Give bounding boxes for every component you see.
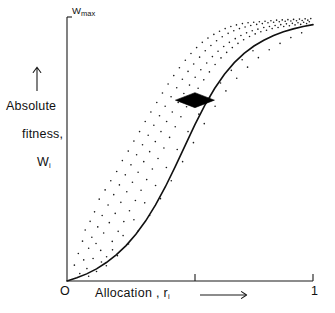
scatter-point: [212, 56, 214, 58]
scatter-point: [92, 258, 94, 260]
scatter-point: [193, 63, 195, 65]
scatter-point: [229, 42, 231, 44]
scatter-point: [167, 83, 169, 85]
scatter-point: [290, 37, 292, 39]
scatter-point: [98, 198, 100, 200]
scatter-point: [171, 111, 173, 113]
scatter-point: [221, 36, 223, 38]
scatter-point: [106, 265, 108, 267]
scatter-point: [246, 32, 248, 34]
scatter-point: [289, 25, 291, 27]
scatter-point: [162, 92, 164, 94]
scatter-point: [133, 219, 135, 221]
scatter-point: [189, 84, 191, 86]
scatter-point: [132, 181, 134, 183]
scatter-point: [133, 140, 135, 142]
scatter-point: [110, 180, 112, 182]
scatter-point: [79, 273, 81, 275]
scatter-point: [117, 231, 119, 233]
y-axis-max-label-base: W: [72, 5, 81, 16]
scatter-point: [304, 18, 306, 20]
scatter-point: [159, 115, 161, 117]
scatter-point: [202, 42, 204, 44]
scatter-point: [207, 37, 209, 39]
scatter-point: [241, 59, 243, 61]
scatter-point: [206, 62, 208, 64]
scatter-point: [114, 213, 116, 215]
scatter-point: [96, 271, 98, 273]
scatter-point: [106, 256, 108, 258]
scatter-point: [227, 33, 229, 35]
scatter-point: [126, 191, 128, 193]
y-axis-title-line-1: Absolute: [6, 100, 56, 113]
scatter-point: [209, 71, 211, 73]
scatter-point: [237, 43, 239, 45]
scatter-point: [186, 106, 188, 108]
scatter-point: [247, 66, 249, 68]
scatter-point: [89, 221, 91, 223]
scatter-point: [180, 116, 182, 118]
scatter-point: [171, 180, 173, 182]
scatter-point: [231, 70, 233, 72]
scatter-point: [253, 21, 255, 23]
y-axis-title-line-3: Wi: [37, 156, 51, 170]
scatter-point: [196, 47, 198, 49]
scatter-point: [95, 243, 97, 245]
scatter-point: [290, 20, 292, 22]
x-axis-origin-label: O: [60, 285, 70, 298]
scatter-point: [163, 147, 165, 149]
scatter-point: [262, 23, 264, 25]
scatter-point: [243, 39, 245, 41]
scatter-point: [100, 250, 102, 252]
scatter-point: [203, 79, 205, 81]
scatter-point: [179, 67, 181, 69]
scatter-point: [283, 26, 285, 28]
scatter-point: [292, 23, 294, 25]
scatter-point: [136, 154, 138, 156]
scatter-point: [279, 21, 281, 23]
scatter-point: [111, 241, 113, 243]
scatter-point: [230, 26, 232, 28]
scatter-point: [91, 236, 93, 238]
scatter-point: [94, 211, 96, 213]
scatter-point: [250, 25, 252, 27]
y-axis-up-arrow-icon: [33, 67, 41, 91]
scatter-point: [139, 131, 141, 133]
scatter-point: [190, 53, 192, 55]
scatter-point: [166, 167, 168, 169]
scatter-point: [239, 28, 241, 30]
scatter-point: [137, 171, 139, 173]
scatter-point: [82, 240, 84, 242]
scatter-point: [164, 105, 166, 107]
scatter-point: [113, 194, 115, 196]
scatter-point: [294, 24, 296, 26]
scatter-point: [214, 105, 216, 107]
scatter-point: [153, 124, 155, 126]
scatter-point: [88, 247, 90, 249]
x-axis-title-subscript: i: [168, 292, 170, 301]
scatter-point: [84, 229, 86, 231]
scatter-point: [277, 27, 279, 29]
scatter-point: [301, 20, 303, 22]
scatter-point: [182, 161, 184, 163]
scatter-point: [310, 18, 312, 20]
scatter-point: [130, 164, 132, 166]
scatter-point: [140, 189, 142, 191]
scatter-point: [264, 20, 266, 22]
scatter-point: [156, 102, 158, 104]
scatter-point: [284, 20, 286, 22]
scatter-point: [226, 52, 228, 54]
scatter-point: [271, 28, 273, 30]
scatter-point: [210, 45, 212, 47]
scatter-point: [217, 51, 219, 53]
scatter-point: [280, 24, 282, 26]
scatter-point: [185, 60, 187, 62]
scatter-point: [183, 93, 185, 95]
scatter-point: [122, 160, 124, 162]
scatter-point: [267, 22, 269, 24]
scatter-point: [279, 43, 281, 45]
scatter-point: [155, 141, 157, 143]
scatter-point: [214, 64, 216, 66]
scatter-point: [257, 28, 259, 30]
scatter-point: [220, 82, 222, 84]
